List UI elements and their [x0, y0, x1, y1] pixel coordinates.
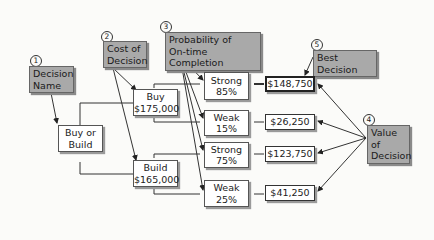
value-node-best: $148,750 — [265, 76, 315, 92]
annotation-value-of-decision: Value of Decision — [367, 125, 410, 164]
annotation-probability: Probability of On-time Completion — [165, 32, 261, 71]
annotation-line: Decision — [371, 150, 406, 162]
outcome-probability: 85% — [205, 86, 248, 98]
annotation-line: Best Decision — [317, 52, 373, 75]
annotation-line: Cost of — [107, 43, 143, 55]
value-node: $26,250 — [265, 114, 315, 130]
annotation-line: Decision — [107, 55, 143, 67]
decision-name: Buy — [134, 91, 177, 103]
outcome-node: Weak 25% — [204, 180, 249, 207]
node-line: Buy or — [59, 127, 102, 139]
outcome-label: Strong — [205, 75, 248, 87]
outcome-probability: 75% — [205, 155, 248, 167]
annotation-cost-of-decision: Cost of Decision — [103, 41, 147, 68]
outcome-node: Strong 85% — [204, 72, 249, 100]
outcome-probability: 15% — [205, 123, 248, 135]
annotation-decision-name: Decision Name — [29, 66, 74, 93]
decision-name: Build — [134, 162, 177, 174]
decision-cost: $165,000 — [134, 174, 177, 186]
outcome-label: Weak — [205, 112, 248, 124]
value-node: $41,250 — [265, 185, 315, 201]
outcome-label: Weak — [205, 182, 248, 194]
root-decision-node: Buy or Build — [58, 125, 103, 152]
decision-cost: $175,000 — [134, 103, 177, 115]
outcome-label: Strong — [205, 144, 248, 156]
outcome-probability: 25% — [205, 194, 248, 206]
node-line: Build — [59, 139, 102, 151]
value-node: $123,750 — [265, 146, 315, 162]
annotation-line: Probability of — [169, 34, 257, 46]
annotation-best-decision: Best Decision — [313, 50, 377, 77]
annotation-line: Decision — [33, 68, 70, 80]
annotation-line: Name — [33, 80, 70, 92]
annotation-line: Value of — [371, 127, 406, 150]
decision-node-build: Build $165,000 — [133, 160, 178, 187]
annotation-line: On-time Completion — [169, 46, 257, 69]
outcome-node: Strong 75% — [204, 142, 249, 168]
outcome-node: Weak 15% — [204, 110, 249, 136]
decision-node-buy: Buy $175,000 — [133, 89, 178, 116]
